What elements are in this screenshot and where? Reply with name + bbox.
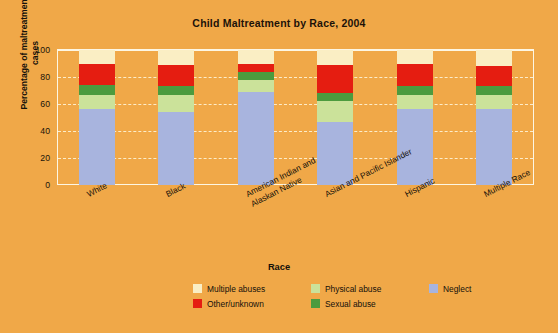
- bar-segment-other-unknown: [238, 64, 274, 72]
- bar-segment-physical-abuse: [317, 101, 353, 121]
- y-axis-tick-100: 100: [24, 45, 50, 55]
- bar-segment-other-unknown: [79, 64, 115, 86]
- legend-item-physical-abuse: Physical abuse: [311, 284, 429, 294]
- bar-segment-neglect: [79, 109, 115, 185]
- y-axis-tick-20: 20: [24, 153, 50, 163]
- x-axis-tick-labels: WhiteBlackAmerican Indian andAlaskan Nat…: [57, 186, 534, 266]
- legend-item-sexual-abuse: Sexual abuse: [311, 299, 429, 309]
- legend-label: Sexual abuse: [325, 299, 376, 309]
- bar-segment-neglect: [158, 112, 194, 185]
- x-axis-label: Race: [0, 262, 558, 272]
- bar-american-indian-and-alaskan-native: [238, 50, 274, 185]
- bar-segment-multiple-abuses: [79, 50, 115, 64]
- legend-swatch-icon: [193, 299, 202, 308]
- bar-segment-neglect: [476, 109, 512, 185]
- bar-segment-sexual-abuse: [397, 86, 433, 94]
- bar-segment-sexual-abuse: [238, 72, 274, 80]
- y-axis-tick-0: 0: [24, 180, 50, 190]
- bar-segment-multiple-abuses: [317, 50, 353, 65]
- bar-segment-other-unknown: [317, 65, 353, 93]
- chart-container: Child Maltreatment by Race, 2004 Percent…: [0, 0, 558, 333]
- bar-asian-and-pacific-islander: [317, 50, 353, 185]
- legend-label: Physical abuse: [325, 284, 381, 294]
- bar-segment-multiple-abuses: [476, 50, 512, 66]
- y-axis-tick-60: 60: [24, 99, 50, 109]
- legend-swatch-icon: [193, 284, 202, 293]
- legend-label: Neglect: [443, 284, 471, 294]
- legend-swatch-icon: [311, 299, 320, 308]
- bar-segment-sexual-abuse: [476, 86, 512, 94]
- bar-segment-sexual-abuse: [158, 86, 194, 94]
- y-axis-tick-40: 40: [24, 126, 50, 136]
- chart-legend: Multiple abusesPhysical abuseNeglectOthe…: [193, 281, 543, 311]
- bar-segment-physical-abuse: [158, 95, 194, 113]
- bar-segment-physical-abuse: [397, 95, 433, 110]
- bar-segment-other-unknown: [476, 66, 512, 86]
- bar-white: [79, 50, 115, 185]
- bar-segment-physical-abuse: [238, 80, 274, 92]
- bar-segment-sexual-abuse: [317, 93, 353, 101]
- bar-segment-neglect: [397, 109, 433, 185]
- bar-segment-other-unknown: [158, 65, 194, 87]
- legend-item-neglect: Neglect: [429, 284, 529, 294]
- bar-black: [158, 50, 194, 185]
- legend-item-other-unknown: Other/unknown: [193, 299, 311, 309]
- bar-segment-physical-abuse: [79, 95, 115, 110]
- bar-segment-other-unknown: [397, 64, 433, 87]
- bar-segment-sexual-abuse: [79, 85, 115, 94]
- bar-hispanic: [397, 50, 433, 185]
- legend-label: Other/unknown: [207, 299, 264, 309]
- legend-swatch-icon: [311, 284, 320, 293]
- bar-segment-physical-abuse: [476, 95, 512, 110]
- bar-multiple-race: [476, 50, 512, 185]
- bar-segment-neglect: [317, 122, 353, 185]
- bar-segment-multiple-abuses: [397, 50, 433, 64]
- bar-segment-neglect: [238, 92, 274, 185]
- legend-label: Multiple abuses: [207, 284, 265, 294]
- bar-segment-multiple-abuses: [158, 50, 194, 65]
- legend-swatch-icon: [429, 284, 438, 293]
- legend-item-multiple-abuses: Multiple abuses: [193, 284, 311, 294]
- bar-segment-multiple-abuses: [238, 50, 274, 64]
- y-axis-tick-80: 80: [24, 72, 50, 82]
